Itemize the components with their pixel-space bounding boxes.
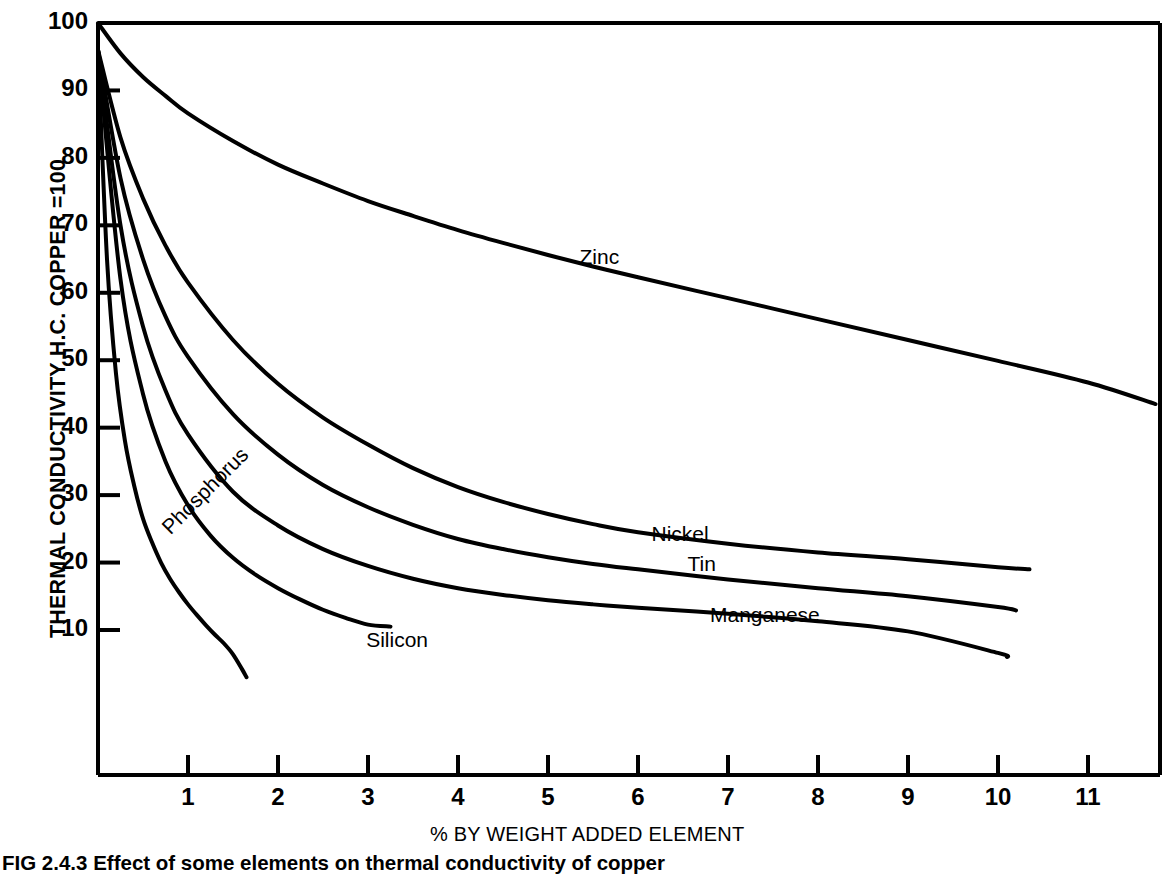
series-curve-nickel bbox=[98, 50, 1030, 569]
series-label-manganese: Manganese bbox=[710, 603, 820, 627]
series-curve-zinc bbox=[98, 23, 1156, 404]
series-label-nickel: Nickel bbox=[652, 522, 709, 546]
x-tick-label: 2 bbox=[258, 783, 298, 811]
series-curve-tin bbox=[98, 50, 1016, 610]
data-curves bbox=[98, 23, 1156, 677]
x-tick-label: 6 bbox=[618, 783, 658, 811]
axis-ticks bbox=[98, 23, 1088, 775]
y-axis-title: THERMAL CONDUCTIVITY H.C. COPPER =100 bbox=[46, 79, 71, 719]
x-axis-title: % BY WEIGHT ADDED ELEMENT bbox=[430, 823, 744, 846]
x-tick-label: 10 bbox=[978, 783, 1018, 811]
figure-container: 102030405060708090100 1234567891011 Zinc… bbox=[0, 0, 1171, 884]
series-curve-silicon bbox=[98, 50, 391, 627]
series-label-zinc: Zinc bbox=[580, 245, 620, 269]
x-tick-label: 9 bbox=[888, 783, 928, 811]
series-label-silicon: Silicon bbox=[366, 628, 428, 652]
x-tick-label: 3 bbox=[348, 783, 388, 811]
x-tick-label: 1 bbox=[168, 783, 208, 811]
x-tick-label: 8 bbox=[798, 783, 838, 811]
series-curve-phosphorus bbox=[98, 50, 247, 677]
chart-plot bbox=[0, 0, 1171, 884]
figure-caption: FIG 2.4.3 Effect of some elements on the… bbox=[2, 851, 665, 875]
x-tick-label: 4 bbox=[438, 783, 478, 811]
axes-frame bbox=[98, 23, 1160, 775]
x-tick-label: 5 bbox=[528, 783, 568, 811]
series-label-tin: Tin bbox=[688, 552, 716, 576]
x-tick-label: 7 bbox=[708, 783, 748, 811]
y-tick-label: 100 bbox=[26, 7, 88, 35]
x-tick-label: 11 bbox=[1068, 783, 1108, 811]
